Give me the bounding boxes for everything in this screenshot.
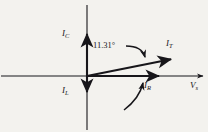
- label-inductive-current: IL: [62, 86, 69, 97]
- phasor-diagram-canvas: [0, 0, 208, 132]
- phasor-diagram-figure: IC IL IR IT Vs 11.31°: [0, 0, 208, 132]
- label-capacitive-current: IC: [62, 29, 69, 40]
- angle-leader-arrow: [126, 46, 145, 57]
- label-source-voltage: Vs: [190, 81, 198, 92]
- label-total-current: IT: [166, 39, 173, 50]
- label-resistive-current: IR: [144, 81, 151, 92]
- phasor-it: [87, 59, 171, 76]
- ir-leader-arrow: [124, 83, 143, 110]
- label-phase-angle: 11.31°: [93, 41, 115, 50]
